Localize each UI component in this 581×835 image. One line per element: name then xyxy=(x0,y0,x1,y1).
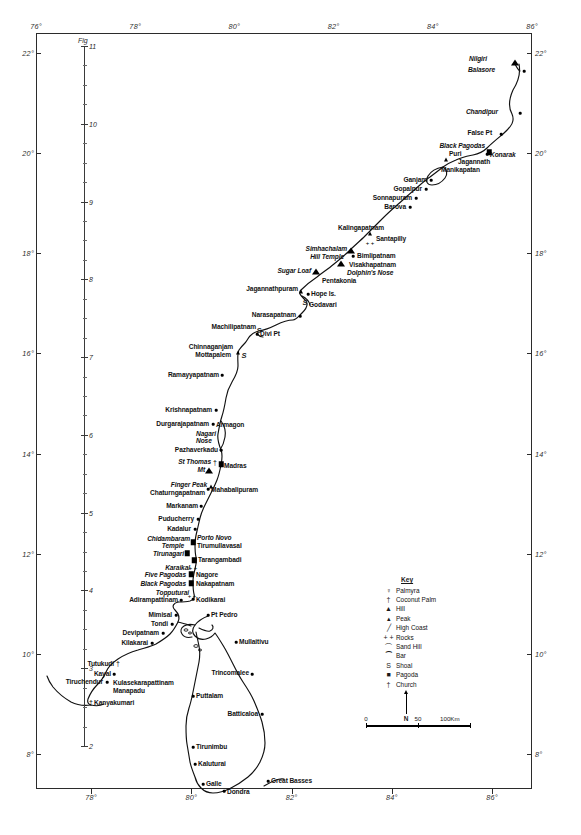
longitude-tickmark xyxy=(392,789,393,794)
place-label: Kulasekarapattinam xyxy=(113,680,174,687)
place-dot-icon xyxy=(409,206,412,209)
place-dot-icon xyxy=(500,133,503,136)
key-label: Coconut Palm xyxy=(396,596,436,603)
longitude-tick-bottom: 80° xyxy=(185,793,197,802)
place-label: Kanyakumari xyxy=(94,700,134,707)
latitude-tick-right: 22° xyxy=(535,49,547,58)
longitude-tick-bottom: 84° xyxy=(386,793,398,802)
longitude-tick-bottom: 82° xyxy=(286,793,298,802)
latitude-tick-left: 10° xyxy=(22,649,34,658)
fig-scale-minor-tick xyxy=(83,571,87,572)
key-row: ╱High Coast xyxy=(381,623,473,632)
latitude-tick-right: 14° xyxy=(535,449,547,458)
key-row: ■Pagoda xyxy=(381,670,473,679)
place-dot-icon xyxy=(425,188,428,191)
place-label: Kodikarai xyxy=(196,597,225,604)
place-dot-icon xyxy=(215,409,218,412)
key-label: Bar xyxy=(396,652,406,659)
place-label: Chinnaganjam xyxy=(189,344,233,351)
place-label: Jagannathpuram xyxy=(246,286,298,293)
fig-scale-minor-tick xyxy=(83,474,87,475)
map-figure: 76°78°80°82°84°86°78°80°82°84°86°22°20°1… xyxy=(0,0,581,835)
place-label: Pt Pedro xyxy=(211,612,237,619)
latitude-tickmark xyxy=(527,253,532,254)
longitude-tickmark xyxy=(91,789,92,794)
latitude-tick-left: 12° xyxy=(22,549,34,558)
place-label: Godavari xyxy=(309,302,337,309)
north-arrow-label: N xyxy=(399,715,413,722)
longitude-tick-top: 84° xyxy=(427,22,439,31)
fig-scale-number: 11 xyxy=(89,43,96,50)
hill-icon xyxy=(337,260,345,266)
map-key: Key ♀Palmyra†Coconut Palm▲Hill▴Peak╱High… xyxy=(381,576,473,689)
place-label: Gopalpur xyxy=(393,186,422,193)
fig-scale-tick xyxy=(81,513,88,514)
fig-scale-number: 10 xyxy=(89,120,97,127)
place-label: Pazhaverkadu xyxy=(175,447,218,454)
place-label: Puducherry xyxy=(158,516,194,523)
place-label: Simhachalam xyxy=(306,246,347,253)
fig-scale-minor-tick xyxy=(83,688,87,689)
hill-icon xyxy=(347,247,355,253)
scale-bar-tick-50 xyxy=(418,723,419,728)
place-label: Durgarajapatnam xyxy=(156,421,209,428)
place-label: Dolphin's Nose xyxy=(347,270,393,277)
place-label: Black Pagodas xyxy=(140,581,186,588)
longitude-tick-bottom: 86° xyxy=(486,793,498,802)
fig-scale-number: 7 xyxy=(89,354,93,361)
place-label: Kalingapatnam xyxy=(338,225,384,232)
peak-icon xyxy=(444,158,448,162)
latitude-tickmark xyxy=(36,253,41,254)
place-label: Sonnapuram xyxy=(373,195,412,202)
key-row: ⌒Sand Hill xyxy=(381,642,473,651)
scale-bar-label-end: 100Km xyxy=(440,715,460,722)
place-label: Kadalur xyxy=(167,526,191,533)
key-label: Sand Hill xyxy=(396,643,422,650)
coconut-palm-icon: † xyxy=(116,660,120,667)
pagoda-icon xyxy=(219,461,224,467)
place-label: Krishnapatnam xyxy=(165,407,212,414)
longitude-tickmark xyxy=(292,789,293,794)
fig-scale-minor-tick xyxy=(83,163,87,164)
place-dot-icon xyxy=(192,598,195,601)
place-label: Mt xyxy=(198,467,206,474)
fig-scale-tick xyxy=(81,357,88,358)
latitude-tick-right: 10° xyxy=(535,649,547,658)
place-label: Galle xyxy=(206,781,222,788)
latitude-tickmark xyxy=(36,454,41,455)
place-label: Jagannath xyxy=(458,159,490,166)
place-dot-icon xyxy=(197,518,200,521)
place-dot-icon xyxy=(235,641,238,644)
shoal-icon: S xyxy=(302,298,307,307)
place-label: Black Pagodas xyxy=(439,143,485,150)
place-dot-icon xyxy=(171,623,174,626)
place-label: Porto Novo xyxy=(197,535,232,542)
pagoda-icon xyxy=(189,580,194,586)
place-label: Balasore xyxy=(468,67,495,74)
fig-scale-tick xyxy=(81,746,88,747)
hill-icon xyxy=(205,467,213,473)
place-label: Mullaitivu xyxy=(239,639,268,646)
shoal-icon: S xyxy=(381,662,396,669)
place-label: Santapilly xyxy=(376,236,406,243)
fig-scale-minor-tick xyxy=(83,299,87,300)
place-dot-icon xyxy=(207,488,210,491)
place-dot-icon xyxy=(299,315,302,318)
peak-icon xyxy=(236,351,240,355)
longitude-tick-bottom: 78° xyxy=(85,793,97,802)
place-dot-icon xyxy=(162,632,165,635)
coconut-palm-icon: † xyxy=(381,596,396,603)
rocks-icon: + + xyxy=(366,240,375,246)
place-label: Kaluturai xyxy=(198,761,226,768)
fig-scale-number: 9 xyxy=(89,198,93,205)
fig-scale-minor-tick xyxy=(83,649,87,650)
latitude-tick-right: 18° xyxy=(535,249,547,258)
place-dot-icon xyxy=(207,614,210,617)
place-label: Sugar Loaf xyxy=(278,268,311,275)
fig-scale-number: 8 xyxy=(89,276,93,283)
latitude-tick-right: 20° xyxy=(535,149,547,158)
fig-scale-minor-tick xyxy=(83,610,87,611)
fig-scale-tick xyxy=(81,668,88,669)
scale-bar-graphic: 0 50 100Km xyxy=(366,724,471,727)
fig-scale-minor-tick xyxy=(83,104,87,105)
